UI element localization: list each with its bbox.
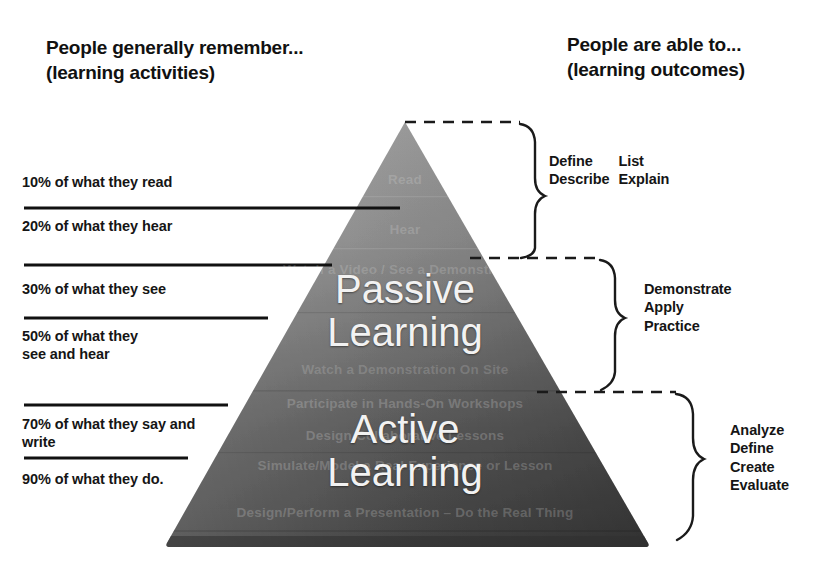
outcome-group-analyze: Analyze Define Create Evaluate [730,421,833,494]
activity-label-20-percent: 20% of what they hear [22,217,272,235]
activity-label-70-percent: 70% of what they say and write [22,415,197,451]
outcome-group-demonstrate: Demonstrate Apply Practice [644,280,814,335]
outcome-column-b: List Explain [618,152,669,189]
brace-analyze [676,394,704,540]
brace-demonstrate [600,260,625,390]
activity-label-30-percent: 30% of what they see [22,280,272,298]
header-learning-outcomes: People are able to... (learning outcomes… [567,33,827,82]
activity-label-90-percent: 90% of what they do. [22,470,172,488]
activity-label-10-percent: 10% of what they read [22,173,272,191]
learning-pyramid-diagram: People generally remember... (learning a… [0,0,833,579]
activity-label-50-percent: 50% of what they see and hear [22,327,162,363]
brace-define-list [520,124,545,258]
outcome-group-define-list: Define Describe List Explain [549,152,749,189]
header-learning-activities: People generally remember... (learning a… [46,36,346,85]
outcome-column-a: Define Describe [549,152,609,189]
